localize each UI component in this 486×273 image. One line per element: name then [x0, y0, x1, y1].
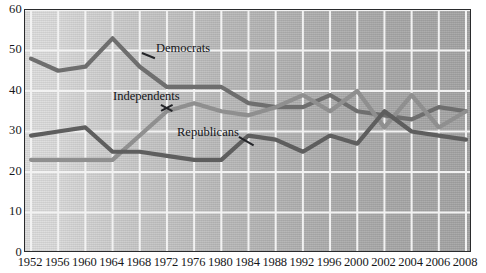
y-axis-tick-label: 40: [2, 84, 22, 97]
x-axis: 1952195619601964196819721976198019841988…: [0, 255, 486, 273]
y-axis-tick-label: 60: [2, 3, 22, 16]
chart-figure: 0102030405060 Democrats Independents Rep…: [0, 0, 486, 273]
y-axis-tick-label: 20: [2, 165, 22, 178]
series-label-independents: Independents: [113, 90, 180, 103]
plot-area: [24, 9, 471, 252]
series-label-republicans: Republicans: [177, 126, 239, 139]
plot-svg: [25, 10, 471, 252]
y-axis-tick-label: 30: [2, 124, 22, 137]
series-label-democrats: Democrats: [156, 42, 210, 55]
y-axis-tick-label: 10: [2, 205, 22, 218]
x-axis-tick-label: 2008: [445, 255, 485, 271]
y-axis: 0102030405060: [0, 0, 22, 273]
y-axis-tick-label: 50: [2, 43, 22, 56]
